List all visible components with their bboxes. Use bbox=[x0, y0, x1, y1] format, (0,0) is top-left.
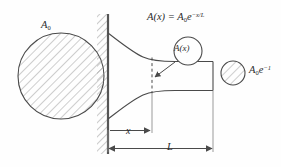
outlet-area-label: A0e−1 bbox=[249, 65, 271, 76]
callout-leader-arrow bbox=[155, 62, 175, 77]
horn-bottom-profile bbox=[108, 91, 213, 120]
rigid-wall bbox=[97, 14, 108, 154]
inlet-area-circle bbox=[18, 33, 104, 119]
wall-hatching bbox=[97, 14, 108, 154]
inlet-circle-outline bbox=[18, 33, 104, 119]
outlet-area-circle bbox=[221, 61, 245, 85]
inlet-area-label: A0 bbox=[41, 20, 51, 31]
L-dimension-label: L bbox=[167, 142, 173, 153]
x-dimension-label: x bbox=[126, 126, 130, 136]
outlet-circle-outline bbox=[221, 61, 245, 85]
horn-equation-label: A(x) = A0e−x/L bbox=[147, 12, 204, 23]
exponential-horn-figure: A0 A(x) = A0e−x/L A(x) A0e−1 x L bbox=[0, 0, 281, 167]
area-callout-label: A(x) bbox=[174, 44, 190, 53]
